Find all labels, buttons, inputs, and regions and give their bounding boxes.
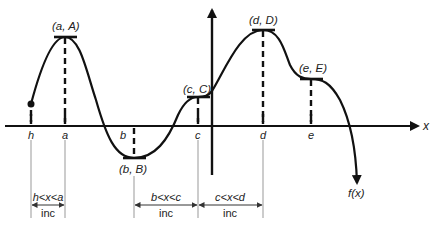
function-label: f(x) (348, 187, 365, 199)
function-curve (31, 30, 357, 183)
dashed-guides (31, 31, 311, 157)
interval-behavior-1: inc (41, 207, 56, 219)
interval-range-1: h<x<a (33, 191, 64, 203)
tick-label-h: h (28, 129, 34, 141)
tick-label-a: a (62, 129, 68, 141)
interval-behavior-2: inc (159, 207, 174, 219)
start-point-dot (28, 101, 35, 108)
interval-range-3: c<x<d (215, 191, 246, 203)
function-diagram: x h a b c d e (0, 0, 445, 230)
point-label-b: (b, B) (119, 163, 147, 175)
interval-behavior-3: inc (223, 207, 238, 219)
x-axis: x (5, 119, 430, 133)
tick-label-c: c (195, 129, 201, 141)
x-axis-label: x (422, 119, 430, 133)
tick-label-d: d (260, 129, 267, 141)
x-tick-marks (31, 114, 311, 122)
interval-range-2: b<x<c (151, 191, 181, 203)
tick-label-b: b (120, 129, 126, 141)
tick-label-e: e (308, 129, 314, 141)
point-label-d: (d, D) (249, 14, 278, 26)
point-label-e: (e, E) (299, 62, 327, 74)
point-label-c: (c, C) (183, 83, 211, 95)
point-label-a: (a, A) (52, 20, 80, 32)
